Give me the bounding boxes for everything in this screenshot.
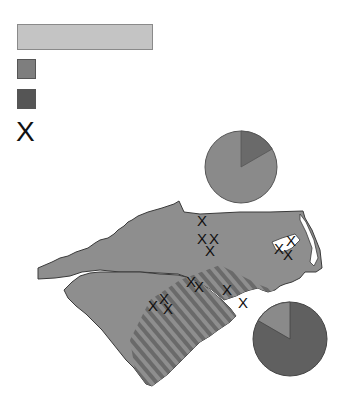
map-canvas: X X X X X X X X X X X X X X [0, 0, 346, 415]
x-marker-icon: X [283, 246, 293, 263]
upper-pie-chart [205, 131, 277, 203]
x-marker-icon: X [194, 278, 204, 295]
x-marker-icon: X [163, 300, 173, 317]
x-marker-icon: X [148, 297, 158, 314]
lower-pie-chart [253, 302, 327, 376]
x-marker-icon: X [205, 242, 215, 259]
x-marker-icon: X [222, 281, 232, 298]
x-marker-icon: X [197, 212, 207, 229]
x-marker-icon: X [238, 294, 248, 311]
